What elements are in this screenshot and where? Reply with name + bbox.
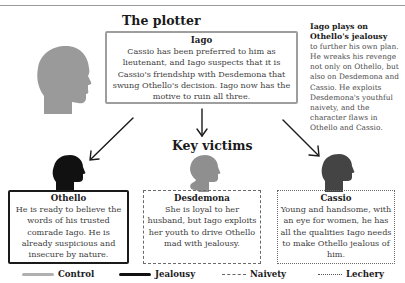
othello-head-icon: [52, 154, 86, 192]
legend-label: Jealousy: [155, 269, 195, 279]
cassio-head-icon: [321, 153, 355, 192]
desdemona-box: Desdemona She is loyal to her husband, b…: [143, 190, 261, 264]
legend: Control Jealousy Naivety Lechery: [0, 269, 405, 283]
desdemona-head-icon: [187, 154, 221, 192]
control-line-icon: [22, 273, 54, 276]
cassio-description: Young and handsome, with an eye for wome…: [280, 204, 392, 260]
cassio-name: Cassio: [280, 193, 392, 204]
othello-description: He is ready to believe the words of his …: [12, 204, 125, 260]
naivety-line-icon: [222, 274, 246, 275]
victims-heading: Key victims: [172, 138, 253, 153]
legend-label: Lechery: [346, 269, 384, 279]
othello-name: Othello: [12, 193, 125, 204]
legend-label: Naivety: [250, 269, 286, 279]
legend-item-control: Control: [22, 269, 94, 279]
legend-item-lechery: Lechery: [318, 269, 384, 279]
lechery-line-icon: [318, 274, 342, 275]
legend-label: Control: [58, 269, 94, 279]
jealousy-line-icon: [119, 273, 151, 276]
legend-item-naivety: Naivety: [222, 269, 286, 279]
desdemona-description: She is loyal to her husband, but Iago ex…: [146, 204, 258, 249]
desdemona-name: Desdemona: [146, 193, 258, 204]
legend-item-jealousy: Jealousy: [119, 269, 195, 279]
othello-box: Othello He is ready to believe the words…: [8, 190, 129, 264]
cassio-box: Cassio Young and handsome, with an eye f…: [277, 190, 395, 264]
